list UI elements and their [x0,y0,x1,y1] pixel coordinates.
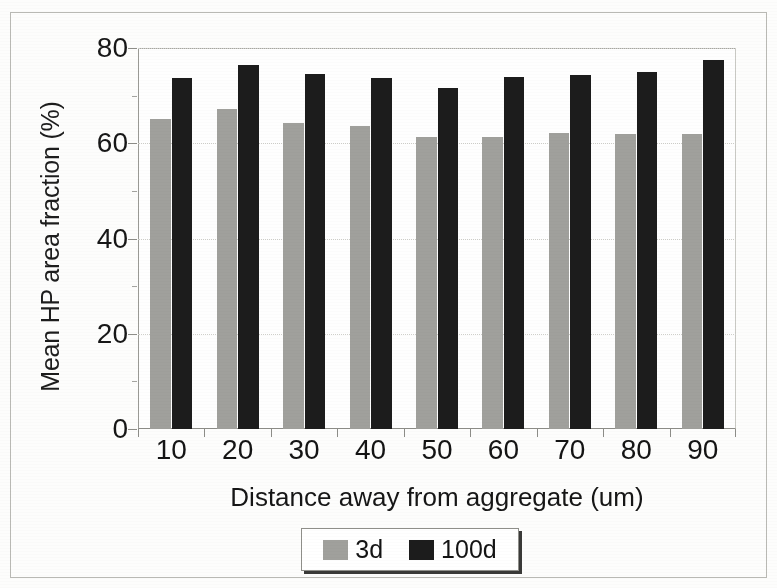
y-tick-80 [128,48,137,49]
bar-3d-70 [549,133,570,429]
bars-layer [138,48,736,429]
bar-100d-20 [238,65,259,429]
x-tick-label-40: 40 [355,436,386,464]
x-tick-label-30: 30 [289,436,320,464]
y-tick-0 [128,429,137,430]
y-tick-40 [128,239,137,240]
y-tick-label-20: 20 [97,320,128,348]
legend-swatch-icon-3d [323,540,348,560]
legend-label-3d: 3d [355,537,383,562]
plot-region [138,48,736,429]
bar-100d-50 [438,88,459,429]
x-tick-label-60: 60 [488,436,519,464]
x-axis-tick-labels: 102030405060708090 [138,436,736,474]
bar-3d-10 [150,119,171,429]
x-tick-label-10: 10 [156,436,187,464]
y-minor-tick-30 [132,286,137,287]
legend-entry-100d: 100d [409,537,497,562]
figure-root: Mean HP area fraction (%) 020406080 1020… [0,0,777,588]
x-tick-label-20: 20 [222,436,253,464]
y-minor-tick-70 [132,96,137,97]
legend-swatch-icon-100d [409,540,434,560]
x-tick-label-80: 80 [621,436,652,464]
y-tick-20 [128,334,137,335]
bar-3d-20 [217,109,238,429]
y-tick-60 [128,143,137,144]
y-axis-tick-labels: 020406080 [60,48,128,429]
y-minor-tick-50 [132,191,137,192]
bar-3d-80 [615,134,636,429]
x-tick-label-70: 70 [554,436,585,464]
bar-3d-90 [682,134,703,429]
bar-3d-40 [350,126,371,429]
y-minor-tick-10 [132,381,137,382]
x-tick-label-90: 90 [687,436,718,464]
y-tick-label-60: 60 [97,129,128,157]
legend-entry-3d: 3d [323,537,383,562]
x-tick-label-50: 50 [421,436,452,464]
y-tick-label-0: 0 [112,415,128,443]
bar-3d-60 [482,137,503,429]
y-tick-label-40: 40 [97,225,128,253]
bar-100d-40 [371,78,392,429]
legend-label-100d: 100d [441,537,497,562]
bar-100d-30 [305,74,326,429]
bar-100d-70 [570,75,591,429]
bar-100d-60 [504,77,525,429]
bar-3d-50 [416,137,437,429]
bar-100d-90 [703,60,724,429]
chart-legend: 3d100d [301,528,519,571]
bar-3d-30 [283,123,304,429]
bar-100d-80 [637,72,658,429]
y-tick-label-80: 80 [97,34,128,62]
x-axis-title: Distance away from aggregate (um) [138,482,736,513]
bar-100d-10 [172,78,193,429]
